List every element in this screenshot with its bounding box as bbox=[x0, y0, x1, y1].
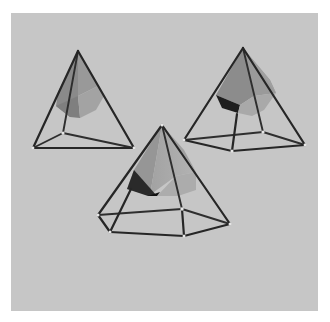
joint bbox=[304, 144, 307, 147]
joint bbox=[133, 147, 136, 150]
joint bbox=[261, 130, 264, 133]
joint bbox=[61, 131, 64, 134]
joint bbox=[160, 123, 163, 126]
joint bbox=[183, 235, 186, 238]
joint bbox=[183, 139, 186, 142]
left-pyramid bbox=[32, 51, 136, 149]
center-pyramid bbox=[97, 123, 232, 237]
rod bbox=[98, 209, 182, 215]
rod bbox=[63, 133, 134, 148]
joint bbox=[32, 147, 35, 150]
rod bbox=[182, 209, 230, 224]
joint bbox=[230, 149, 233, 152]
rod bbox=[232, 114, 237, 151]
rod bbox=[182, 209, 184, 236]
right-pyramid bbox=[183, 48, 307, 153]
rod bbox=[184, 140, 232, 151]
joint bbox=[109, 231, 112, 234]
joint bbox=[229, 223, 232, 226]
rod bbox=[184, 132, 263, 140]
rod bbox=[232, 145, 305, 151]
joint bbox=[97, 214, 100, 217]
joint bbox=[180, 207, 183, 210]
rod bbox=[110, 232, 184, 236]
rod bbox=[98, 215, 110, 232]
rod bbox=[184, 224, 230, 236]
pyramid-scene bbox=[0, 0, 330, 322]
